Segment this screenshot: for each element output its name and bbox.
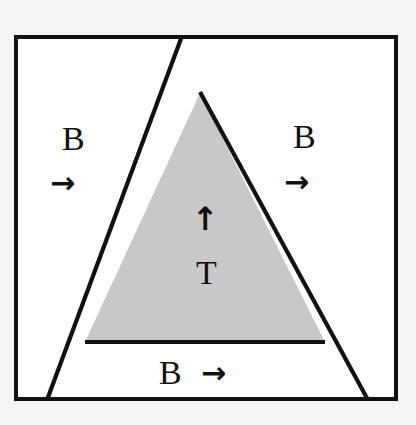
right-arrow-icon-left: → bbox=[50, 168, 75, 198]
label-b-bottom: B bbox=[159, 356, 182, 390]
label-t-center: T bbox=[196, 256, 217, 290]
up-arrow-icon-center: ↑ bbox=[192, 203, 219, 235]
diagram-canvas: B → B → ↑ T B → bbox=[0, 0, 416, 425]
label-b-right: B bbox=[293, 120, 316, 154]
right-arrow-icon-bottom: → bbox=[201, 358, 226, 388]
right-arrow-icon-right: → bbox=[284, 167, 309, 197]
label-b-left: B bbox=[62, 122, 85, 156]
